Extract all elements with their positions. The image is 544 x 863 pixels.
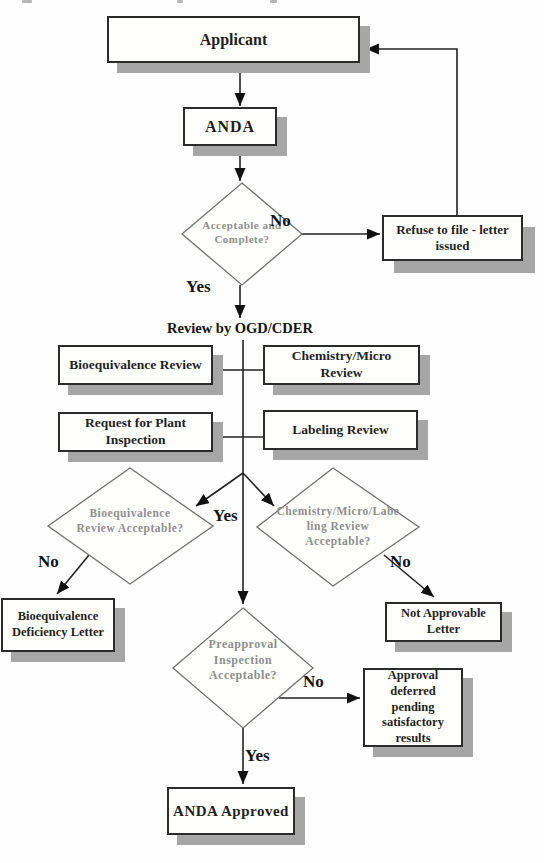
edge-split-to-bio-diamond — [196, 473, 243, 506]
edge-no-to-deficiency — [57, 555, 89, 594]
node-bioequivalence-deficiency-letter: Bioequivalence Deficiency Letter — [1, 598, 115, 652]
node-not-approvable-letter: Not Approvable Letter — [385, 602, 502, 642]
label-no-file: No — [270, 211, 291, 231]
cropped-text-artifact — [22, 0, 32, 3]
node-applicant: Applicant — [107, 16, 360, 63]
node-request-plant-inspection: Request for Plant Inspection — [58, 412, 213, 452]
label-no-chem-labeling: No — [390, 552, 411, 572]
diamond-text-chem-micro-labeling: Chemistry/Micro/Labe ling Review Accepta… — [256, 504, 420, 549]
review-by-ogd-cder-label: Review by OGD/CDER — [150, 320, 330, 337]
label-no-inspection: No — [303, 672, 324, 692]
node-bioequivalence-review: Bioequivalence Review — [58, 345, 213, 385]
diamond-text-bioequivalence-acceptable: Bioequivalence Review Acceptable? — [48, 506, 212, 536]
cropped-text-artifact — [177, 0, 183, 3]
edge-refuse-back-to-applicant — [366, 49, 457, 215]
anda-review-flowchart: Applicant ANDA Refuse to file - letter i… — [0, 0, 544, 863]
label-yes-inspection: Yes — [245, 746, 270, 766]
node-labeling-review: Labeling Review — [263, 410, 418, 450]
label-yes-file: Yes — [186, 277, 211, 297]
label-yes-reviews: Yes — [213, 506, 238, 526]
edge-split-to-chem-diamond — [243, 473, 274, 506]
cropped-text-artifact — [270, 0, 277, 3]
diamond-text-preapproval-inspection: Preapproval Inspection Acceptable? — [183, 637, 303, 684]
label-no-bioequivalence: No — [38, 552, 59, 572]
node-anda-approved: ANDA Approved — [167, 787, 295, 835]
node-anda: ANDA — [183, 107, 277, 146]
node-approval-deferred: Approval deferred pending satisfactory r… — [363, 668, 463, 747]
node-chemistry-micro-review: Chemistry/Micro Review — [263, 345, 420, 385]
node-refuse-to-file: Refuse to file - letter issued — [382, 215, 523, 261]
